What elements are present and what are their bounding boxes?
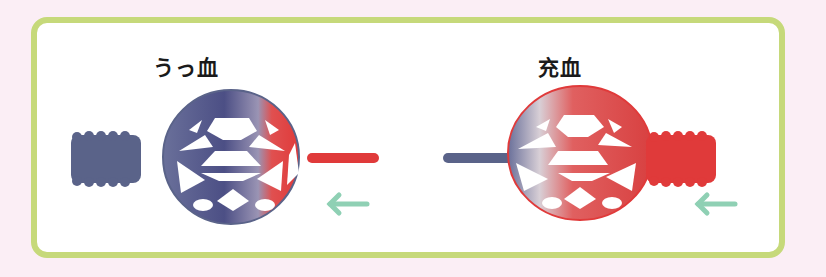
flow-arrow-icon: [330, 195, 367, 213]
capillary-bed-illustration: [37, 23, 408, 252]
vein: [443, 153, 513, 163]
diagram-frame: うっ血: [31, 17, 785, 258]
capillary-bed-illustration: [408, 23, 779, 252]
panel-hyperemia: 充血: [408, 23, 779, 252]
dilated-vein: [71, 131, 141, 187]
artery: [307, 153, 379, 163]
panel-congestion: うっ血: [37, 23, 408, 252]
flow-arrow-icon: [698, 195, 735, 213]
dilated-artery: [646, 131, 716, 187]
